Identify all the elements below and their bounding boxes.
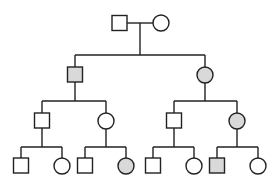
male-unaffected-IV-5 [146,158,161,173]
male-unaffected-IV-1 [14,158,29,173]
pedigree-chart [0,0,280,187]
female-unaffected-III-2 [98,113,114,129]
connector-lines [21,23,258,158]
male-unaffected-III-3 [167,113,182,128]
male-unaffected-III-1 [35,113,50,128]
female-affected-IV-4 [118,158,134,174]
male-affected-IV-7 [210,158,225,173]
female-affected-III-4 [229,113,245,129]
male-affected-II-1 [68,67,83,82]
male-unaffected-IV-3 [78,158,93,173]
female-unaffected-IV-2 [54,158,70,174]
female-unaffected-I-2 [153,15,169,31]
male-unaffected-I-1 [112,16,127,31]
female-unaffected-IV-8 [250,158,266,174]
female-affected-II-2 [197,67,213,83]
female-unaffected-IV-6 [186,158,202,174]
